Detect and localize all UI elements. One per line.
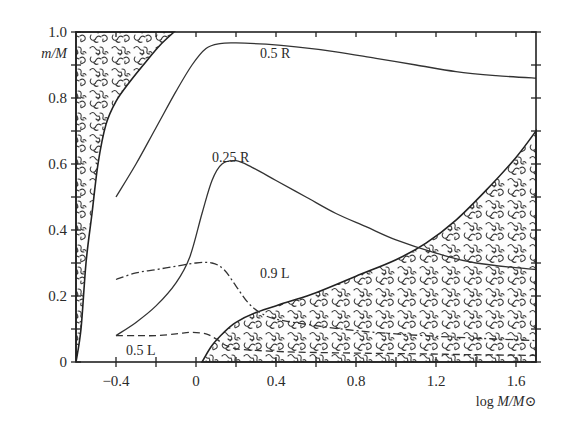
lower-right-hatched-region [202, 131, 536, 362]
curve-label: 0.5 R [260, 46, 291, 61]
x-tick-label: −0.4 [102, 373, 130, 389]
y-tick-label: 0.4 [48, 222, 67, 238]
y-axis-label: m/M [41, 46, 68, 61]
y-tick-label: 0.8 [48, 90, 67, 106]
x-tick-label: 0.4 [267, 373, 286, 389]
y-tick-label: 0.2 [48, 288, 67, 304]
x-tick-label: 1.6 [507, 373, 526, 389]
x-tick-label: 1.2 [427, 373, 446, 389]
y-tick-label: 1.0 [48, 24, 67, 40]
chart: −0.400.40.81.21.600.20.40.60.81.0m/Mlog … [0, 0, 563, 422]
curve-0-5-r [116, 43, 536, 197]
x-axis-label: log M/M⊙ [476, 394, 536, 409]
upper-left-hatched-region [76, 32, 174, 362]
curve-label: 0.25 R [212, 150, 250, 165]
x-tick-label: 0 [192, 373, 200, 389]
x-tick-label: 0.8 [347, 373, 366, 389]
y-tick-label: 0.6 [48, 156, 67, 172]
curve-label: 0.5 L [126, 343, 156, 358]
y-tick-label: 0 [60, 354, 68, 370]
curve-label: 0.9 L [260, 266, 290, 281]
